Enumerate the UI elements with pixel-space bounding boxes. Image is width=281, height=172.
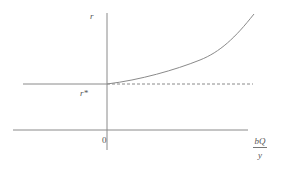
diagram-canvas	[0, 0, 281, 172]
x-axis-label-denominator: y	[258, 150, 262, 160]
y-axis-label: r	[90, 12, 94, 21]
fraction-bar	[253, 147, 267, 148]
rstar-label: r*	[80, 89, 88, 98]
r-curve	[107, 14, 254, 84]
x-axis-label-numerator: bQ	[255, 136, 266, 146]
x-axis-label: bQ y	[251, 136, 269, 160]
origin-label: 0	[102, 136, 107, 145]
